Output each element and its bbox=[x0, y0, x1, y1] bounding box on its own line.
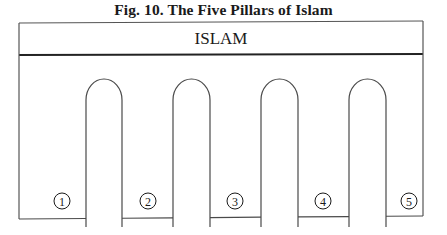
roof-bottom-line bbox=[19, 54, 423, 55]
pillar-arch bbox=[261, 79, 298, 227]
pillar-arch bbox=[349, 79, 386, 227]
number-label: 2 bbox=[145, 195, 151, 209]
roof-top-line bbox=[19, 21, 423, 23]
pillar-number-5: 5 bbox=[401, 193, 417, 209]
pillar-number-1: 1 bbox=[54, 193, 70, 209]
pillar-arch bbox=[173, 79, 210, 227]
pillar-number-4: 4 bbox=[315, 193, 331, 209]
pillar-numbers: 12345 bbox=[54, 193, 417, 209]
number-label: 4 bbox=[320, 195, 326, 209]
number-label: 5 bbox=[406, 195, 412, 209]
pillar-number-2: 2 bbox=[140, 193, 156, 209]
pillars-group bbox=[19, 79, 423, 227]
number-label: 3 bbox=[232, 195, 238, 209]
pillars-diagram: ISLAM 12345 bbox=[0, 0, 447, 235]
roof-box bbox=[19, 21, 423, 219]
pillar-arch bbox=[86, 79, 122, 227]
header-label: ISLAM bbox=[195, 29, 248, 48]
pillar-number-3: 3 bbox=[227, 193, 243, 209]
number-label: 1 bbox=[59, 195, 65, 209]
